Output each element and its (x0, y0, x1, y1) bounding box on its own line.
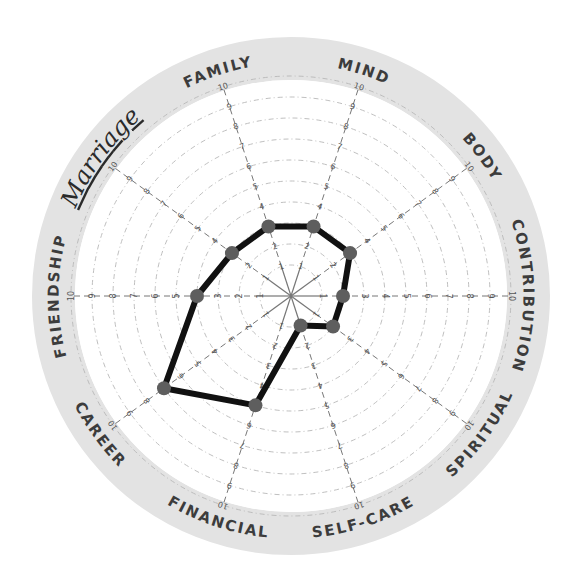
tick-label: 5 (172, 293, 181, 298)
data-point-mind (307, 220, 321, 234)
data-point-marriage (225, 246, 239, 260)
tick-label: 5 (402, 293, 411, 298)
data-point-self-care (294, 318, 308, 332)
life-balance-wheel-chart: 1234567891012345678910123456789101234567… (0, 0, 575, 588)
data-point-contribution (336, 289, 350, 303)
tick-label: 3 (214, 293, 223, 298)
tick-label: 8 (465, 293, 474, 298)
data-point-friendship (190, 289, 204, 303)
tick-label: 6 (151, 293, 160, 298)
data-point-spiritual (326, 320, 340, 334)
tick-label: 7 (130, 293, 139, 298)
tick-label: 6 (423, 293, 432, 298)
tick-label: 7 (444, 293, 453, 298)
data-point-body (343, 246, 357, 260)
tick-label: 3 (360, 293, 369, 298)
tick-label: 9 (88, 293, 97, 298)
data-point-career (157, 381, 171, 395)
tick-label: 10 (67, 291, 76, 301)
tick-label: 4 (381, 293, 390, 298)
tick-label: 2 (235, 293, 244, 298)
tick-label: 9 (486, 293, 495, 298)
data-point-financial (248, 398, 262, 412)
tick-label: 1 (318, 293, 327, 298)
tick-label: 1 (256, 293, 265, 298)
tick-label: 10 (507, 291, 516, 301)
data-point-family (261, 220, 275, 234)
tick-label: 8 (109, 293, 118, 298)
